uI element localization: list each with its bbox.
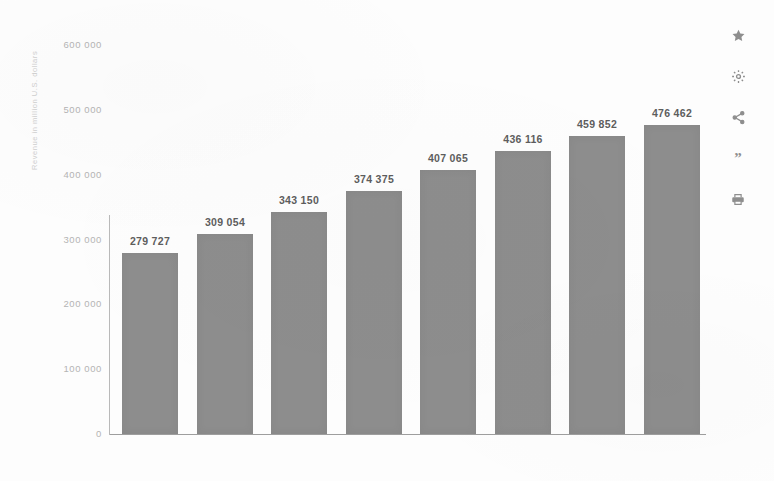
bar[interactable] (495, 151, 551, 434)
y-axis-tick-label: 400 000 (44, 169, 102, 180)
bar-group: 436 1162022* (495, 45, 551, 434)
y-axis-tick-label: 200 000 (44, 298, 102, 309)
side-toolbar: ” (718, 24, 758, 210)
quote-glyph: ” (734, 151, 742, 166)
bar-group: 374 3752020 (346, 45, 402, 434)
plot-area: 279 7272017309 0542018343 1502019374 375… (110, 45, 706, 434)
share-icon[interactable] (726, 106, 750, 128)
y-axis-tick-label: 300 000 (44, 234, 102, 245)
y-axis-tick-label: 0 (44, 428, 102, 439)
bar[interactable] (420, 170, 476, 434)
bar-value-label: 476 462 (630, 107, 714, 119)
bar-group: 407 0652021* (420, 45, 476, 434)
bar-chart: Revenue in million U.S. dollars 0100 000… (0, 0, 700, 481)
bar-group: 279 7272017 (122, 45, 178, 434)
bar-value-label: 343 150 (257, 194, 341, 206)
bar-value-label: 309 054 (183, 216, 267, 228)
bar-value-label: 374 375 (332, 173, 416, 185)
bar-group: 476 4622024* (644, 45, 700, 434)
bar-value-label: 436 116 (481, 133, 565, 145)
gear-icon[interactable] (726, 65, 750, 87)
print-icon[interactable] (726, 188, 750, 210)
bar-group: 459 8522023* (569, 45, 625, 434)
y-axis-tick-label: 600 000 (44, 39, 102, 50)
chart-page: Revenue in million U.S. dollars 0100 000… (0, 0, 774, 481)
quote-icon[interactable]: ” (726, 147, 750, 169)
bar[interactable] (122, 253, 178, 434)
bar-group: 343 1502019 (271, 45, 327, 434)
star-icon[interactable] (726, 24, 750, 46)
y-axis-line (109, 215, 110, 435)
bar[interactable] (271, 212, 327, 434)
y-axis-tick-label: 100 000 (44, 363, 102, 374)
bar-value-label: 279 727 (108, 235, 192, 247)
y-axis-title: Revenue in million U.S. dollars (30, 0, 39, 170)
bar-value-label: 459 852 (555, 118, 639, 130)
bar-value-label: 407 065 (406, 152, 490, 164)
y-axis-tick-label: 500 000 (44, 104, 102, 115)
bar[interactable] (197, 234, 253, 434)
bar-group: 309 0542018 (197, 45, 253, 434)
bar[interactable] (346, 191, 402, 434)
x-axis-line (110, 434, 706, 435)
bar[interactable] (644, 125, 700, 434)
bar[interactable] (569, 136, 625, 434)
